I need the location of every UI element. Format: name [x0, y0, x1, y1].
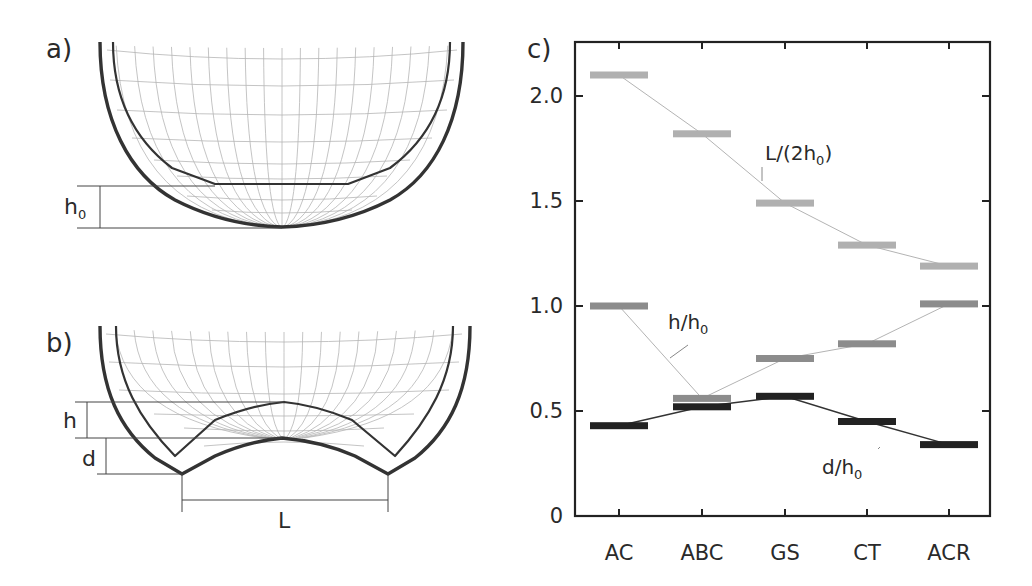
series-annotations: L/(2h0)h/h0d/h0 [668, 141, 880, 482]
data-bar-marker [920, 300, 978, 307]
mesh-line [209, 332, 275, 438]
mesh-line [286, 332, 302, 438]
mesh-line [302, 330, 434, 438]
mesh-line [204, 442, 364, 446]
series-annotation-label: d/h0 [822, 455, 862, 482]
panel-c-chart: c) 00.51.01.52.0 ACABCGSCTACR L/(2h0)h/h… [527, 34, 990, 565]
data-bar-marker [838, 340, 896, 347]
panel-a-label: a) [46, 34, 72, 64]
data-bar-marker [756, 393, 814, 400]
data-bar-marker [838, 418, 896, 425]
x-category-label: ACR [927, 541, 970, 565]
panel-a-bowl-diagram: a) h0 [46, 34, 463, 228]
chart-series [590, 72, 978, 449]
annotation-leader-line [878, 447, 880, 449]
bowl-inner-flat-contour [113, 42, 450, 184]
y-tick-label: 0.5 [530, 399, 563, 423]
panel-c-label: c) [527, 34, 551, 64]
mesh-line [304, 330, 452, 438]
data-bar-marker [590, 422, 648, 429]
data-bar-marker [590, 303, 648, 310]
data-bar-marker [920, 441, 978, 448]
annotation-leader-line [670, 345, 688, 358]
series-connector-line [619, 396, 949, 444]
mesh-line [295, 47, 392, 226]
y-tick-label: 1.0 [530, 294, 563, 318]
mesh-line [190, 331, 272, 438]
data-bar-marker [673, 130, 731, 137]
data-bar-marker [673, 403, 731, 410]
x-category-label: CT [853, 541, 881, 565]
mesh-line [284, 48, 300, 226]
y-tick-label: 0 [550, 504, 563, 528]
d-label: d [82, 446, 96, 471]
x-axis-ticks: ACABCGSCTACR [605, 42, 971, 565]
series-connector-line [619, 75, 949, 266]
x-category-label: GS [770, 541, 800, 565]
data-bar-marker [590, 72, 648, 79]
data-bar-marker [838, 242, 896, 249]
h-label: h [63, 408, 77, 433]
panel-b-label: b) [46, 328, 73, 358]
h0-label: h0 [64, 194, 86, 222]
y-tick-label: 1.5 [530, 189, 563, 213]
data-bar-marker [920, 263, 978, 270]
x-category-label: ABC [680, 541, 723, 565]
mesh-line [295, 331, 377, 438]
x-category-label: AC [605, 541, 634, 565]
bowl-inner-buckled-contour [116, 326, 453, 456]
mesh-line [171, 47, 268, 226]
data-bar-marker [756, 355, 814, 362]
mesh-line [172, 331, 271, 438]
bowl-mesh-grid-buckled [106, 330, 462, 446]
mesh-line [134, 330, 266, 438]
figure: a) h0 b) h d L c) 00.51.01.52.0 ACABCGSC… [0, 0, 1032, 586]
mesh-line [264, 48, 280, 226]
series-annotation-label: L/(2h0) [765, 141, 832, 168]
series-annotation-label: h/h0 [668, 310, 708, 337]
data-bar-marker [756, 200, 814, 207]
mesh-line [115, 330, 263, 438]
mesh-line [293, 332, 359, 438]
data-bar-marker [673, 395, 731, 402]
y-tick-label: 2.0 [530, 84, 563, 108]
L-label: L [278, 508, 291, 533]
bowl-mesh-grid [107, 46, 457, 226]
mesh-line [297, 331, 396, 438]
panel-b-buckled-bowl-diagram: b) h d L [46, 326, 470, 533]
mesh-line [265, 332, 281, 438]
